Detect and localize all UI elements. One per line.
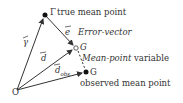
d-vector-label: d — [41, 54, 46, 63]
origin-label: O — [12, 88, 19, 97]
g-observed-description: observed mean point — [80, 79, 171, 88]
g-observed-label: G — [90, 68, 97, 77]
g-variable-point — [74, 46, 78, 50]
error-vector-label: e — [65, 28, 70, 37]
gamma-description: true mean point — [57, 8, 126, 17]
g-variable-desc-rest: variable — [131, 53, 169, 63]
error-vector-description: Error-vector — [78, 28, 132, 37]
gamma-label: Γ — [50, 8, 56, 17]
g-observed-point — [84, 70, 89, 75]
g-variable-desc-italic: Mean-point — [82, 53, 131, 63]
gamma-vector-label: γ — [23, 38, 28, 47]
d-obs-subscript: obs — [60, 71, 70, 77]
gamma-vector-line — [17, 19, 43, 90]
d-obs-vector-line — [17, 73, 82, 90]
gamma-point — [43, 13, 48, 18]
g-variable-label: G — [80, 43, 87, 52]
g-variable-description: Mean-point variable — [82, 54, 169, 63]
d-obs-vector-label: dobs — [55, 66, 70, 77]
